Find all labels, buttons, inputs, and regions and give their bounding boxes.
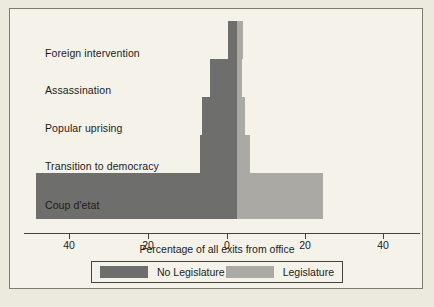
x-axis-title: Percentage of all exits from office xyxy=(0,243,434,255)
x-axis-line xyxy=(24,233,420,234)
category-label-transition-to-democracy: Transition to democracy xyxy=(45,160,159,172)
category-label-coup-detat: Coup d'etat xyxy=(45,199,99,211)
chart-root: Foreign intervention Assassination Popul… xyxy=(0,0,434,307)
bar-segment-no-legislature xyxy=(202,97,237,135)
bar-segment-legislature xyxy=(237,135,250,173)
legend-swatch-legislature xyxy=(226,266,274,278)
bar-group-coup-detat xyxy=(20,173,415,219)
category-label-popular-uprising: Popular uprising xyxy=(45,122,122,134)
legend-swatch-no-legislature xyxy=(100,266,148,278)
bar-segment-no-legislature xyxy=(210,59,237,97)
legend-label-no-legislature: No Legislature xyxy=(157,266,225,278)
bar-segment-no-legislature xyxy=(200,135,237,173)
category-label-assassination: Assassination xyxy=(45,84,111,96)
bar-segment-legislature xyxy=(237,97,245,135)
bar-segment-legislature xyxy=(237,59,242,97)
bar-segment-no-legislature xyxy=(228,21,237,59)
bar-segment-legislature xyxy=(237,21,243,59)
bar-segment-legislature xyxy=(237,173,323,219)
category-label-foreign-intervention: Foreign intervention xyxy=(45,47,140,59)
chart-legend: No Legislature Legislature xyxy=(91,261,343,283)
legend-item-no-legislature: No Legislature xyxy=(100,266,225,278)
plot-area: Foreign intervention Assassination Popul… xyxy=(20,19,415,229)
bar-segment-no-legislature xyxy=(36,173,237,219)
legend-item-legislature: Legislature xyxy=(226,266,334,278)
legend-label-legislature: Legislature xyxy=(283,266,334,278)
